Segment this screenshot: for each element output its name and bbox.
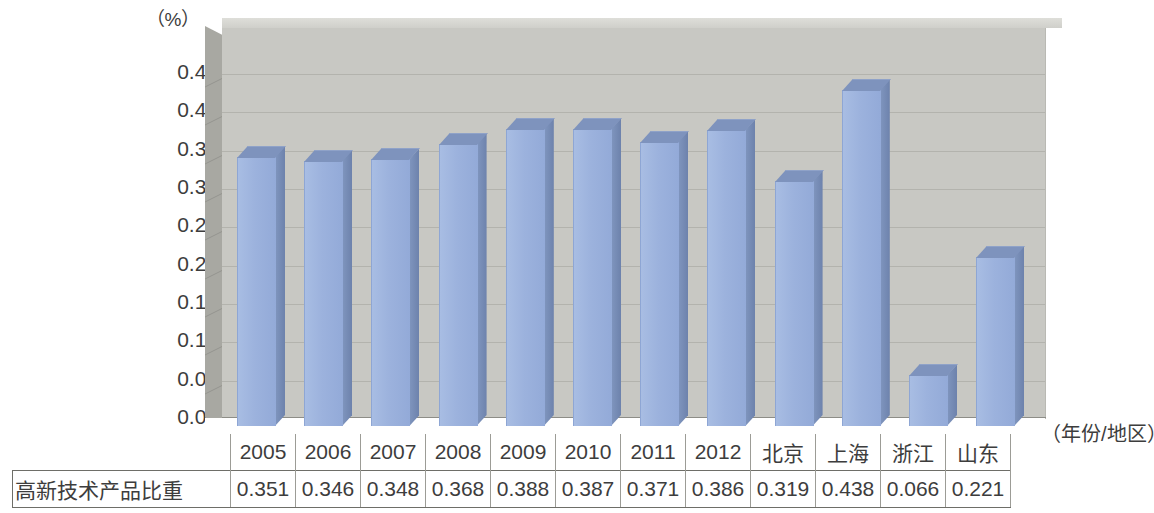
table-header-cell: 浙江 (881, 434, 946, 471)
table-header-cell: 2010 (556, 434, 621, 471)
bar-side-face (813, 170, 823, 426)
bar-浙江 (909, 375, 947, 426)
bar-side-face (678, 131, 688, 426)
table-value-cell: 0.386 (686, 471, 751, 508)
side-wall-gridline (205, 116, 223, 126)
x-axis-caption: （年份/地区） (1041, 418, 1154, 447)
bar-front-face (573, 129, 612, 426)
bar-side-face (880, 79, 890, 426)
bar-上海 (842, 90, 880, 426)
bar-北京 (775, 181, 813, 426)
table-header-cell: 山东 (946, 434, 1011, 471)
bar-side-face (477, 133, 487, 426)
table-value-cell: 0.388 (491, 471, 556, 508)
bar-side-face (745, 119, 755, 426)
bar-front-face (304, 161, 343, 426)
plot-area (205, 26, 1045, 426)
bar-山东 (976, 257, 1014, 426)
side-wall-gridline (205, 154, 223, 164)
table-value-cell: 0.348 (361, 471, 426, 508)
plot-left-wall (205, 26, 223, 426)
bar-2010 (573, 129, 611, 426)
bar-front-face (506, 129, 545, 426)
table-value-cell: 0.346 (296, 471, 361, 508)
y-axis-unit-label: （%） (146, 4, 199, 31)
bar-2005 (237, 157, 275, 426)
table-header-cell: 2005 (231, 434, 296, 471)
gridline (222, 112, 1045, 113)
side-wall-gridline (205, 78, 223, 88)
plot-top-slab (222, 18, 1062, 28)
table-value-cell: 0.351 (231, 471, 296, 508)
side-wall-gridline (205, 308, 223, 318)
table-value-cell: 0.221 (946, 471, 1011, 508)
bar-front-face (237, 157, 276, 426)
table-header-cell: 2012 (686, 434, 751, 471)
table-header-cell: 2006 (296, 434, 361, 471)
side-wall-gridline (205, 193, 223, 203)
table-header-row: 20052006200720082009201020112012北京上海浙江山东 (13, 434, 1011, 471)
bar-side-face (275, 146, 285, 426)
bar-front-face (707, 130, 746, 426)
table-header-cell: 2007 (361, 434, 426, 471)
side-wall-gridline (205, 269, 223, 279)
bar-side-face (409, 148, 419, 426)
bar-side-face (611, 118, 621, 426)
table-header-cell: 2011 (621, 434, 686, 471)
table-value-cell: 0.387 (556, 471, 621, 508)
bar-front-face (439, 144, 478, 426)
bar-2009 (506, 129, 544, 426)
table-header-cell: 2008 (426, 434, 491, 471)
table-row-label: 高新技术产品比重 (13, 471, 231, 508)
gridline (222, 74, 1045, 75)
table-value-cell: 0.371 (621, 471, 686, 508)
table-value-cell: 0.368 (426, 471, 491, 508)
table-value-cell: 0.066 (881, 471, 946, 508)
table-row: 高新技术产品比重 0.3510.3460.3480.3680.3880.3870… (13, 471, 1011, 508)
bar-side-face (342, 150, 352, 426)
table-header-cell: 北京 (751, 434, 816, 471)
bar-front-face (371, 159, 410, 426)
chart-figure: （%） 0.450.400.350.300.250.200.150.100.05… (0, 0, 1154, 513)
bar-side-face (1014, 246, 1024, 426)
bar-front-face (842, 90, 881, 426)
side-wall-gridline (205, 231, 223, 241)
bar-front-face (640, 142, 679, 426)
table-value-cell: 0.319 (751, 471, 816, 508)
bar-side-face (544, 118, 554, 426)
bar-front-face (976, 257, 1015, 426)
bar-2011 (640, 142, 678, 426)
side-wall-gridline (205, 384, 223, 394)
bar-2008 (439, 144, 477, 426)
bar-2006 (304, 161, 342, 426)
bar-front-face (775, 181, 814, 426)
table-header-spacer (13, 434, 231, 471)
bar-2012 (707, 130, 745, 426)
side-wall-gridline (205, 346, 223, 356)
bar-2007 (371, 159, 409, 426)
data-table: 20052006200720082009201020112012北京上海浙江山东… (12, 434, 1011, 508)
table-header-cell: 上海 (816, 434, 881, 471)
table-value-cell: 0.438 (816, 471, 881, 508)
bar-front-face (909, 375, 948, 426)
table-header-cell: 2009 (491, 434, 556, 471)
